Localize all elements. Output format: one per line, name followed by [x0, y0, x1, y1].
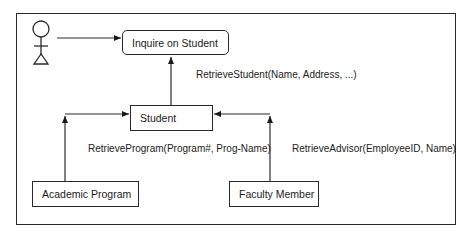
actor-icon [33, 21, 49, 64]
edge-label-retrieve-advisor: RetrieveAdvisor(EmployeeID, Name) [292, 143, 456, 154]
entity-academic-program: Academic Program [32, 181, 139, 207]
process-inquire-on-student: Inquire on Student [122, 30, 229, 55]
edge-label-retrieve-program: RetrieveProgram(Program#, Prog-Name) [88, 143, 271, 154]
edge-label-retrieve-student: RetrieveStudent(Name, Address, ...) [196, 69, 357, 80]
node-label: Academic Program [42, 188, 131, 200]
node-label: Faculty Member [239, 188, 314, 200]
entity-faculty-member: Faculty Member [229, 181, 319, 207]
entity-student: Student [130, 105, 213, 131]
node-label: Student [140, 112, 176, 124]
node-label: Inquire on Student [132, 37, 218, 49]
